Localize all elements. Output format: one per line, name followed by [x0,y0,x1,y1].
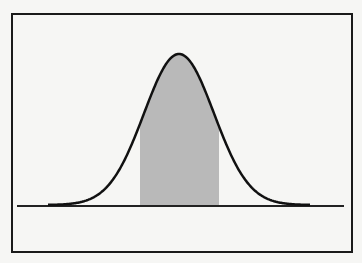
shaded-region [140,54,219,205]
normal-curve-plot [0,0,362,263]
